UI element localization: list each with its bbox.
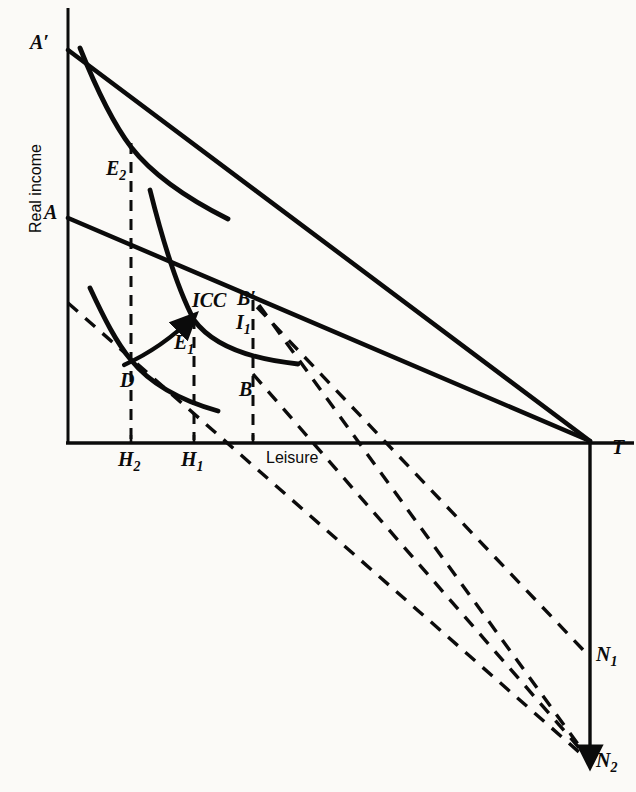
dashed-ray-bprime-n1 xyxy=(257,307,588,655)
budget-line-a-t xyxy=(68,218,590,441)
x-axis-label: Leisure xyxy=(266,450,318,466)
label-t: T xyxy=(612,437,624,457)
label-e2: E2 xyxy=(106,158,126,183)
label-a-prime: A′ xyxy=(30,32,49,52)
right-vertical-axis-group xyxy=(584,443,596,758)
label-e1: E1 xyxy=(174,332,194,357)
labour-leisure-diagram: A′ A E2 E1 D ICC B′ I1 B T N1 N2 H2 H1 L… xyxy=(0,0,636,792)
label-n1: N1 xyxy=(596,644,617,669)
labour-supply-rays-group xyxy=(68,303,588,760)
label-b-prime: B′ xyxy=(237,288,256,308)
label-icc: ICC xyxy=(192,290,226,310)
diagram-canvas xyxy=(0,0,636,792)
dashed-ray-through-d xyxy=(68,303,588,760)
label-a: A xyxy=(44,202,57,222)
dashed-ray-b-n2 xyxy=(253,374,588,758)
label-h1: H1 xyxy=(181,449,204,474)
y-axis-label: Real income xyxy=(28,144,44,233)
dashed-ray-bprime-n2 xyxy=(259,305,588,758)
label-i1: I1 xyxy=(236,312,251,337)
label-b: B xyxy=(239,379,252,399)
label-h2: H2 xyxy=(118,449,141,474)
label-n2: N2 xyxy=(596,750,617,775)
label-d: D xyxy=(120,370,134,390)
